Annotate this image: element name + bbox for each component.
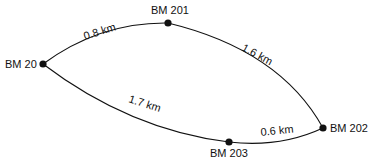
distance-label-bm20-bm201: 0.8 km (82, 20, 117, 42)
node-label-bm202: BM 202 (330, 122, 368, 134)
distance-label-bm201-bm202: 1.6 km (240, 41, 275, 67)
node-label-bm203: BM 203 (210, 147, 248, 159)
level-network-diagram: 0.8 km 1.6 km 1.7 km 0.6 km BM 20 BM 201… (0, 0, 377, 167)
distance-label-bm203-bm202: 0.6 km (260, 123, 294, 138)
benchmark-point-bm201 (164, 19, 171, 26)
node-label-bm20: BM 20 (5, 58, 37, 70)
edge-bm201-bm202 (168, 23, 323, 128)
benchmark-point-bm202 (319, 124, 326, 131)
benchmark-point-bm20 (39, 60, 46, 67)
node-label-bm201: BM 201 (151, 4, 189, 16)
distance-label-bm20-bm203: 1.7 km (127, 92, 162, 114)
benchmark-point-bm203 (225, 138, 232, 145)
